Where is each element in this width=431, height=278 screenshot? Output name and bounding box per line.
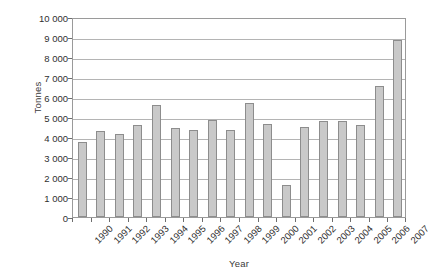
x-axis-tick-mark — [220, 218, 221, 222]
bar — [208, 120, 217, 217]
bar — [96, 131, 105, 217]
x-axis-tick-mark — [72, 218, 73, 222]
x-axis-tick-label: 1998 — [241, 223, 264, 246]
x-axis-tick-label: 1991 — [111, 223, 134, 246]
x-axis-tick-label: 1995 — [185, 223, 208, 246]
bar-series — [73, 19, 405, 217]
bar — [319, 121, 328, 217]
x-axis-tick-label: 2003 — [334, 223, 357, 246]
x-axis-tick-label: 2006 — [389, 223, 412, 246]
x-axis-tick-label: 1990 — [92, 223, 115, 246]
x-axis-tick-mark — [165, 218, 166, 222]
x-axis-title: Year — [72, 258, 406, 269]
x-axis-tick-mark — [405, 218, 406, 222]
y-axis-tick-marks — [0, 18, 72, 218]
x-axis-tick-mark — [202, 218, 203, 222]
bar — [356, 125, 365, 217]
x-axis-tick-label: 1996 — [204, 223, 227, 246]
bar — [189, 130, 198, 217]
x-axis-tick-mark — [183, 218, 184, 222]
bar — [152, 105, 161, 217]
bar — [338, 121, 347, 217]
x-axis-tick-label: 2001 — [297, 223, 320, 246]
x-axis-tick-mark — [128, 218, 129, 222]
bar — [133, 125, 142, 217]
x-axis-tick-mark — [369, 218, 370, 222]
bar — [282, 185, 291, 217]
x-axis-tick-mark — [109, 218, 110, 222]
bar — [393, 40, 402, 217]
x-axis-tick-label: 2002 — [315, 223, 338, 246]
x-axis-tick-label: 2005 — [371, 223, 394, 246]
x-axis-tick-mark — [146, 218, 147, 222]
plot-area — [72, 18, 406, 218]
x-axis-tick-label: 1999 — [259, 223, 282, 246]
x-axis-tick-mark — [276, 218, 277, 222]
x-axis-tick-mark — [387, 218, 388, 222]
bar — [263, 124, 272, 217]
x-axis-tick-mark — [313, 218, 314, 222]
x-axis-tick-mark — [350, 218, 351, 222]
bar — [115, 134, 124, 217]
x-axis-tick-mark — [91, 218, 92, 222]
x-axis-tick-label: 2000 — [278, 223, 301, 246]
bar — [78, 142, 87, 217]
x-axis-tick-label: 2004 — [352, 223, 375, 246]
bar — [300, 127, 309, 217]
x-axis-tick-label: 1992 — [130, 223, 153, 246]
x-axis-tick-mark — [258, 218, 259, 222]
x-axis-tick-mark — [239, 218, 240, 222]
x-axis-tick-label: 1994 — [167, 223, 190, 246]
x-axis-tick-labels: 1990199119921993199419951996199719981999… — [72, 223, 406, 257]
bar — [245, 103, 254, 217]
x-axis-tick-label: 1997 — [222, 223, 245, 246]
x-axis-tick-mark — [332, 218, 333, 222]
x-axis-tick-mark — [295, 218, 296, 222]
bar — [171, 128, 180, 217]
bar — [375, 86, 384, 217]
x-axis-tick-label: 1993 — [148, 223, 171, 246]
x-axis-tick-label: 2007 — [408, 223, 431, 246]
bar — [226, 130, 235, 217]
